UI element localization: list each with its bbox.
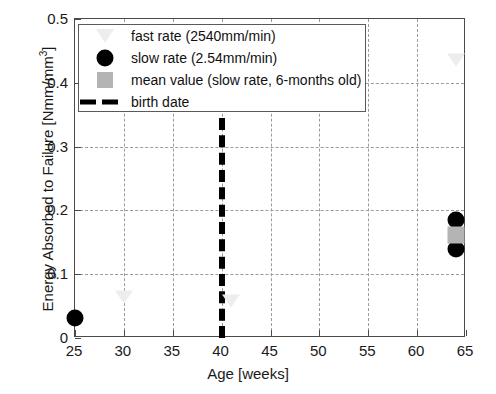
legend-item: birth date xyxy=(79,91,365,113)
x-tick xyxy=(466,330,467,336)
legend-item-label: birth date xyxy=(131,95,189,109)
x-tick xyxy=(417,330,418,336)
circle-icon xyxy=(79,47,131,69)
triangle-down-icon xyxy=(79,25,131,47)
dash-segment xyxy=(102,100,118,105)
triangle-glyph xyxy=(96,29,114,43)
x-tick-label: 35 xyxy=(163,342,180,359)
gridline-horizontal xyxy=(75,210,464,211)
square-glyph xyxy=(97,72,113,88)
y-axis-title-superscript: 3 xyxy=(38,51,49,57)
dash-segment xyxy=(80,100,96,105)
x-tick xyxy=(271,330,272,336)
y-tick-label: 0 xyxy=(28,329,68,346)
x-tick-label: 60 xyxy=(408,342,425,359)
x-tick xyxy=(75,330,76,336)
legend-item: mean value (slow rate, 6-months old) xyxy=(79,69,365,91)
x-tick-label: 55 xyxy=(359,342,376,359)
x-tick xyxy=(319,330,320,336)
gridline-horizontal xyxy=(75,147,464,148)
x-tick-label: 50 xyxy=(310,342,327,359)
gridline-horizontal xyxy=(75,274,464,275)
y-axis-title-end: ] xyxy=(39,47,56,51)
gridline-vertical xyxy=(368,19,369,336)
dashed-line-glyph xyxy=(79,91,131,113)
x-tick-label: 40 xyxy=(212,342,229,359)
x-tick-label: 25 xyxy=(66,342,83,359)
y-tick-label: 0.5 xyxy=(28,10,68,27)
chart-figure: 253035404550556065 00.10.20.30.40.5 Age … xyxy=(0,0,496,394)
legend-item-label: slow rate (2.54mm/min) xyxy=(131,51,277,65)
dashed-line-icon xyxy=(79,91,131,113)
x-tick xyxy=(368,330,369,336)
legend-item: slow rate (2.54mm/min) xyxy=(79,47,365,69)
data-point-marker xyxy=(448,241,465,258)
legend-item: fast rate (2540mm/min) xyxy=(79,25,365,47)
x-tick xyxy=(173,330,174,336)
y-tick xyxy=(75,19,81,20)
data-point-marker xyxy=(448,226,465,243)
y-tick xyxy=(75,210,81,211)
data-point-marker xyxy=(115,290,133,303)
data-point-marker xyxy=(222,294,240,307)
legend: fast rate (2540mm/min)slow rate (2.54mm/… xyxy=(78,24,366,112)
x-tick-label: 45 xyxy=(261,342,278,359)
y-axis-title-main: Energy Absorbed to Failure [Nmm/mm xyxy=(39,56,56,311)
y-tick xyxy=(75,338,81,339)
circle-glyph xyxy=(97,50,114,67)
legend-item-label: fast rate (2540mm/min) xyxy=(131,29,276,43)
x-tick-label: 30 xyxy=(115,342,132,359)
y-axis-title: Energy Absorbed to Failure [Nmm/mm3] xyxy=(38,29,56,329)
data-point-marker xyxy=(447,54,465,67)
x-tick-label: 65 xyxy=(457,342,474,359)
y-tick xyxy=(75,274,81,275)
gridline-vertical xyxy=(417,19,418,336)
y-tick xyxy=(75,147,81,148)
x-axis-title: Age [weeks] xyxy=(0,365,496,382)
legend-item-label: mean value (slow rate, 6-months old) xyxy=(131,73,361,87)
data-point-marker xyxy=(67,310,84,327)
x-tick xyxy=(124,330,125,336)
square-icon xyxy=(79,69,131,91)
